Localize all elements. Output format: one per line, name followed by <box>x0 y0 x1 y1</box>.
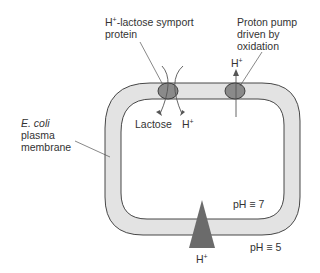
atpase-ion-sup: + <box>204 253 208 260</box>
pump-label-line2: driven by <box>237 28 280 40</box>
pump-ion-h: H <box>231 57 239 69</box>
membrane-label-line1: E. coli <box>21 117 50 129</box>
symport-ion-sup: + <box>190 118 194 125</box>
membrane-label: E. coli plasma membrane <box>21 117 71 153</box>
symport-ion-label: H+ <box>182 118 194 130</box>
symport-label: H+-lactose symport protein <box>105 16 194 40</box>
ph-inside-label: pH ≡ 7 <box>233 198 264 210</box>
symport-label-line2: protein <box>105 28 137 40</box>
membrane-label-line3: membrane <box>21 141 71 153</box>
symport-leader-line <box>140 42 163 85</box>
pump-label: Proton pump driven by oxidation <box>237 16 297 52</box>
ph-outside-label: pH ≡ 5 <box>250 241 281 253</box>
pump-ion-sup: + <box>239 57 243 64</box>
lactose-label: Lactose <box>135 118 172 130</box>
proton-pump-protein <box>225 83 245 99</box>
pump-leader-line <box>240 52 262 86</box>
pump-label-line1: Proton pump <box>237 16 297 28</box>
symport-label-h: H <box>105 16 113 28</box>
symport-label-rest: -lactose symport <box>117 16 194 28</box>
membrane-label-line2: plasma <box>21 129 55 141</box>
pump-ion-label: H+ <box>231 57 243 69</box>
symport-ion-h: H <box>182 118 190 130</box>
atpase-ion-label: H+ <box>196 253 208 265</box>
pump-label-line3: oxidation <box>237 40 279 52</box>
atpase-ion-h: H <box>196 253 204 265</box>
